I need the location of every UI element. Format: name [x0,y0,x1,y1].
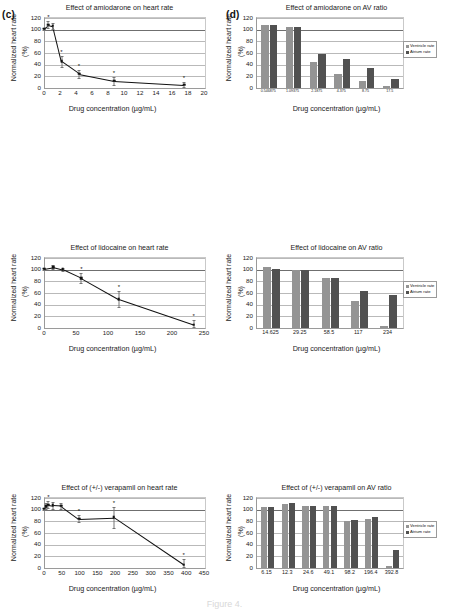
gridline [257,498,403,499]
y-tick-label: 20 [237,72,253,79]
error-cap [183,87,186,88]
y-tick-label: 60 [237,289,253,296]
bar-ventricle [282,504,288,568]
y-tick-label: 20 [25,72,41,79]
gridline [45,281,205,282]
bar-ventricle [302,506,308,568]
y-tick-label: 80 [237,277,253,284]
error-cap [192,320,195,321]
bar-ventricle [310,62,317,88]
y-axis-label: Normalized heart rate [10,13,17,83]
y-axis-label: Normalized heart rate [225,13,232,83]
data-point [113,516,116,519]
plot-area [256,257,404,329]
y-tick-label: 80 [25,517,41,524]
y-tick-label: 120 [25,494,41,501]
gridline [45,533,205,534]
panel-title: Effect of lidocaine on AV ratio [224,244,449,252]
x-tick-label: 20 [194,89,214,96]
error-cap [117,307,120,308]
y-tick-label: 80 [237,517,253,524]
error-cap [51,29,54,30]
bar-atrium [289,503,295,568]
heart-rate-panel: (c)Effect of amiodarone on heart rateNor… [0,0,225,120]
legend-swatch-ventricle [406,45,409,48]
x-axis-label: Drug concentration (µg/mL) [224,584,449,593]
bar-atrium [367,68,374,88]
panel-title: Effect of amiodarone on AV ratio [224,4,449,12]
y-tick-label: 120 [25,14,41,21]
bar-ventricle [383,86,390,88]
error-cap [80,273,83,274]
error-cap [77,522,80,523]
y-tick-label: 40 [25,540,41,547]
x-tick-label: 0 [34,329,54,336]
error-cap [47,501,50,502]
data-point [78,517,81,520]
av-ratio-panel: Effect of (+/-) verapamil on AV ratioNor… [224,480,449,600]
y-tick-label: 100 [25,265,41,272]
bar-ventricle [386,566,392,568]
gridline [257,65,403,66]
data-point [43,267,46,270]
error-cap [80,283,83,284]
y-tick-label: 60 [237,49,253,56]
data-point [52,266,55,269]
gridline [45,41,205,42]
x-axis-label: Drug concentration (µg/mL) [224,104,449,113]
bar-atrium [301,270,309,328]
bar-atrium [270,25,277,88]
y-tick-label: 40 [237,540,253,547]
significance-star: * [113,70,115,76]
figure-caption: Figure 4. [0,599,449,609]
error-cap [182,559,185,560]
gridline [257,258,403,259]
bar-atrium [331,506,337,568]
bar-atrium [360,291,368,328]
gridline [45,76,205,77]
y-tick-label: 120 [237,254,253,261]
bar-ventricle [261,25,268,88]
error-cap [43,270,46,271]
y-tick-label: 20 [237,552,253,559]
gridline [45,258,205,259]
plot-area [44,257,206,329]
x-axis-label: Drug concentration (µg/mL) [0,584,225,593]
gridline [45,316,205,317]
gridline [257,41,403,42]
error-cap [192,327,195,328]
y-tick-label: 100 [237,505,253,512]
plot-area [256,497,404,569]
error-cap [77,515,80,516]
data-point [60,504,63,507]
gridline [45,521,205,522]
y-tick-label: 100 [25,505,41,512]
x-tick-label: 200 [162,329,182,336]
y-axis-label: Normalized heart rate [10,493,17,563]
significance-star: * [118,284,120,290]
av-ratio-panel: Effect of lidocaine on AV ratioNormalize… [224,240,449,360]
y-tick-label: 0 [237,324,253,331]
x-axis-label: Drug concentration (µg/mL) [0,344,225,353]
error-cap [60,509,63,510]
plot-area [256,17,404,89]
gridline [257,76,403,77]
gridline [45,18,205,19]
y-tick-label: 40 [25,300,41,307]
bar-ventricle [380,326,388,328]
bar-atrium [294,27,301,88]
y-axis-label: Normalized heart rate [225,493,232,563]
error-cap [52,269,55,270]
y-tick-label: 120 [237,494,253,501]
bar-ventricle [322,278,330,328]
y-tick-label: 120 [237,14,253,21]
data-point [43,27,46,30]
data-point [47,503,50,506]
y-tick-label: 40 [237,60,253,67]
heart-rate-panel: Effect of lidocaine on heart rateNormali… [0,240,225,360]
gridline [45,545,205,546]
y-axis-label: Normalized heart rate [10,253,17,323]
x-tick-label: 450 [194,569,214,576]
bar-atrium [310,506,316,568]
data-point [192,323,195,326]
